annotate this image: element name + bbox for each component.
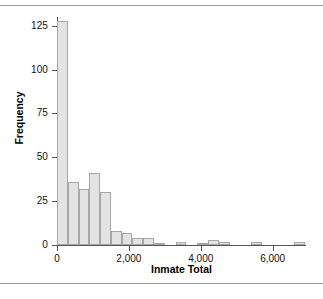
histogram-bar	[208, 240, 219, 245]
figure-bottom-rule	[0, 283, 323, 284]
histogram-bar	[68, 182, 79, 245]
histogram-bar	[122, 233, 133, 245]
y-tick-label: 125	[10, 20, 48, 31]
y-tick-mark	[52, 70, 57, 71]
histogram-bar	[57, 21, 68, 245]
histogram-figure: 0255075100125 02,0004,0006,000 Inmate To…	[0, 0, 323, 299]
histogram-bar	[197, 243, 208, 245]
x-tick-mark	[201, 246, 202, 251]
histogram-bar	[176, 242, 187, 246]
figure-top-rule	[0, 5, 323, 6]
y-tick-mark	[52, 201, 57, 202]
x-axis-line	[57, 245, 306, 246]
plot-area	[57, 17, 305, 245]
y-axis-title: Frequency	[13, 63, 25, 173]
histogram-bars	[57, 17, 305, 245]
y-tick-label: 25	[10, 195, 48, 206]
y-tick-mark	[52, 26, 57, 27]
histogram-bar	[143, 238, 154, 245]
histogram-bar	[132, 238, 143, 245]
histogram-bar	[100, 192, 111, 245]
histogram-bar	[111, 231, 122, 245]
x-tick-mark	[273, 246, 274, 251]
histogram-bar	[89, 173, 100, 245]
histogram-bar	[219, 242, 230, 246]
histogram-bar	[79, 189, 90, 245]
y-tick-mark	[52, 113, 57, 114]
histogram-bar	[294, 242, 305, 246]
x-tick-mark	[57, 246, 58, 251]
y-tick-label: 0	[10, 239, 48, 250]
x-tick-mark	[129, 246, 130, 251]
x-axis-title: Inmate Total	[57, 263, 306, 275]
histogram-bar	[251, 242, 262, 246]
histogram-bar	[154, 243, 165, 245]
y-tick-mark	[52, 157, 57, 158]
